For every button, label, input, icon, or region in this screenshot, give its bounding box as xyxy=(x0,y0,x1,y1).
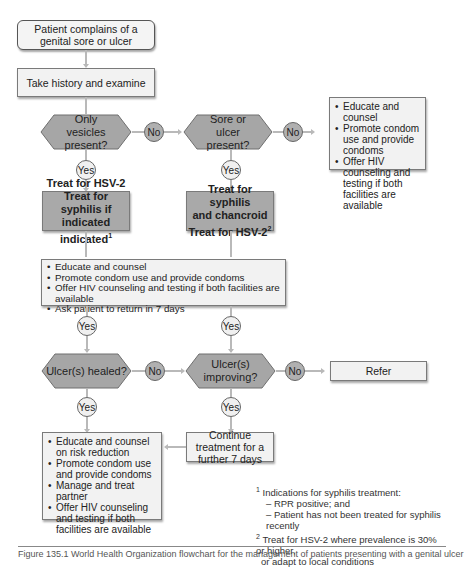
history-node: Take history and examine xyxy=(17,68,155,97)
decision-healed: Ulcer(s) healed? xyxy=(41,353,132,389)
yes-label: Yes xyxy=(221,160,241,180)
action-item: Educate and counsel xyxy=(47,262,280,273)
decision-improving: Ulcer(s) improving? xyxy=(185,353,276,389)
footnote-item: – RPR positive; and xyxy=(256,498,446,509)
yes-label: Yes xyxy=(77,397,97,417)
arrow-icon xyxy=(164,444,168,450)
connector xyxy=(168,446,186,448)
connector xyxy=(86,389,88,397)
decision-sore: Sore or ulcer present? xyxy=(183,114,273,150)
connector xyxy=(164,131,178,133)
no-label: No xyxy=(283,122,303,142)
continue-text: Continue treatment for a further 7 days xyxy=(188,429,272,465)
connector xyxy=(305,370,321,372)
connector xyxy=(85,97,87,114)
footnote-mark: 2 xyxy=(256,533,260,540)
decision-text: Sore or ulcer present? xyxy=(198,113,258,152)
common-actions: Educate and counsel Promote condom use a… xyxy=(41,259,286,306)
connector xyxy=(85,150,87,160)
treat-line: Treat for syphilis if indicated xyxy=(43,190,129,229)
connector xyxy=(132,370,145,372)
action-item: Offer HIV counseling and testing if both… xyxy=(335,156,420,211)
history-text: Take history and examine xyxy=(26,77,145,89)
treat-syphilis-node: Treat for syphilis and chancroid Treat f… xyxy=(186,191,274,231)
connector xyxy=(273,131,283,133)
decision-text: Only vesicles present? xyxy=(55,113,117,152)
arrow-icon xyxy=(321,368,325,374)
footnote-item: – Patient has not been treated for syphi… xyxy=(256,509,446,531)
start-node: Patient complains of a genital sore or u… xyxy=(17,20,155,50)
yes-label: Yes xyxy=(221,316,241,336)
connector xyxy=(132,131,144,133)
arrow-icon xyxy=(178,129,182,135)
no-label: No xyxy=(144,122,164,142)
connector xyxy=(165,370,181,372)
figure-caption: Figure 135.1 World Health Organization f… xyxy=(18,549,448,559)
yes-label: Yes xyxy=(77,316,97,336)
treat-hsv-node: Treat for HSV-2 Treat for syphilis if in… xyxy=(42,191,130,231)
action-item: Promote condom use and provide condoms xyxy=(335,123,420,156)
action-item: Educate and counsel on risk reduction xyxy=(48,436,156,458)
footnote-text: Indications for syphilis treatment: xyxy=(263,487,401,498)
healed-actions: Educate and counsel on risk reduction Pr… xyxy=(42,432,162,520)
action-item: Manage and treat partner xyxy=(48,480,156,502)
decision-text: Ulcer(s) improving? xyxy=(185,358,276,384)
treat-line: Treat for syphilis xyxy=(187,183,273,209)
action-item: Educate and counsel xyxy=(335,101,420,123)
decision-vesicles: Only vesicles present? xyxy=(40,114,132,150)
connector xyxy=(276,370,285,372)
treat-line: Treat for HSV-2 xyxy=(47,177,126,190)
treat-line: and chancroid xyxy=(192,209,267,222)
connector xyxy=(230,306,232,316)
connector xyxy=(85,231,87,257)
action-item: Ask patient to return in 7 days xyxy=(47,304,280,315)
action-item: Promote condom use and provide condoms xyxy=(48,458,156,480)
footnote-mark: 1 xyxy=(256,486,260,493)
refer-node: Refer xyxy=(330,361,427,381)
treat-line: Treat for HSV-2 xyxy=(189,226,268,238)
refer-text: Refer xyxy=(366,365,392,377)
continue-node: Continue treatment for a further 7 days xyxy=(186,432,274,462)
no-label: No xyxy=(285,361,305,381)
yes-label: Yes xyxy=(221,397,241,417)
connector xyxy=(230,150,232,160)
footnote-ref: 1 xyxy=(108,232,112,239)
action-item: Offer HIV counseling and testing if both… xyxy=(47,283,280,304)
connector xyxy=(86,306,88,316)
start-text: Patient complains of a genital sore or u… xyxy=(18,23,154,47)
divider xyxy=(18,546,446,547)
connector xyxy=(230,231,232,257)
action-item: Offer HIV counseling and testing if both… xyxy=(48,502,156,535)
footnote-ref: 2 xyxy=(267,225,271,232)
decision-text: Ulcer(s) healed? xyxy=(46,365,127,378)
connector xyxy=(230,389,232,397)
arrow-icon xyxy=(311,129,315,135)
no-sore-actions: Educate and counsel Promote condom use a… xyxy=(329,97,426,170)
no-label: No xyxy=(145,361,165,381)
